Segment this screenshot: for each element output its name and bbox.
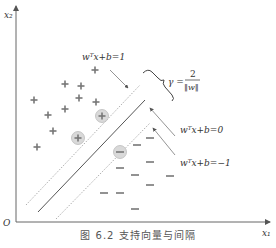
y-axis-label: x₂ (4, 10, 13, 20)
figure-caption: 图 6.2 支持向量与间隔 (0, 227, 276, 242)
positive-point (62, 81, 69, 88)
positive-point (31, 97, 38, 104)
positive-point (50, 128, 57, 135)
upper-margin-line (26, 85, 140, 205)
label-gamma-numerator: 2 (190, 69, 196, 79)
label-gamma: γ = (168, 77, 184, 87)
data-points (31, 67, 175, 210)
label-gamma-denominator: ‖w‖ (184, 83, 199, 92)
positive-point (45, 112, 52, 119)
svm-margin-figure: wᵀx+b=1 wᵀx+b=0 wᵀx+b=−1 γ = 2 ‖w‖ x₂ x₁… (0, 0, 276, 248)
positive-point (62, 106, 69, 113)
positive-point (34, 144, 41, 151)
label-lower-margin: wᵀx+b=−1 (180, 158, 231, 168)
pointer-zero (150, 108, 175, 136)
positive-point (93, 99, 100, 106)
label-hyperplane: wᵀx+b=0 (180, 125, 223, 135)
positive-point (76, 95, 83, 102)
lower-margin-line (56, 123, 150, 219)
positive-point (92, 67, 99, 74)
svm-diagram: wᵀx+b=1 wᵀx+b=0 wᵀx+b=−1 γ = 2 ‖w‖ x₂ x₁… (0, 0, 276, 248)
label-upper-margin: wᵀx+b=1 (82, 52, 125, 62)
positive-point (78, 83, 85, 90)
separating-hyperplane (38, 100, 145, 212)
pointer-upper (110, 70, 128, 88)
